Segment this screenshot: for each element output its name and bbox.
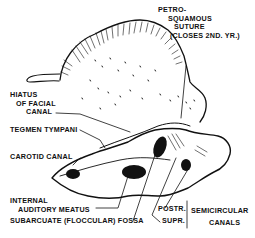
- label-line: CANAL: [10, 108, 56, 117]
- label-tegmen-tympani: TEGMEN TYMPANI: [10, 126, 77, 134]
- label-line: SEMICIRCULAR: [191, 205, 249, 217]
- label-carotid-canal: CAROTID CANAL: [10, 153, 73, 161]
- petrous-shading: [168, 134, 207, 156]
- label-supr: SUPR.: [162, 217, 185, 225]
- label-postr: POSTR.: [158, 205, 186, 213]
- label-line: INTERNAL: [10, 196, 90, 205]
- label-line: CANALS: [191, 217, 249, 229]
- process-outline: [27, 74, 60, 82]
- label-hiatus-facial-canal: HIATUS OF FACIAL CANAL: [10, 91, 56, 117]
- subarcuate-fossa: [151, 135, 170, 160]
- label-internal-auditory-meatus: INTERNAL AUDITORY MEATUS: [10, 196, 90, 214]
- internal-auditory-meatus: [122, 165, 146, 179]
- label-line: AUDITORY MEATUS: [10, 205, 90, 214]
- label-subarcuate-fossa: SUBARCUATE (FLOCCULAR) FOSSA: [10, 217, 144, 225]
- squama-stipple: [82, 58, 195, 109]
- petrous-outline: [52, 129, 230, 199]
- tegmen-edge: [100, 123, 190, 148]
- label-petrosquamous-suture: PETRO- SQUAMOUS SUTURE (CLOSES 2ND. YR.): [158, 6, 240, 40]
- semicircular-depression: [181, 159, 191, 171]
- carotid-canal-opening: [66, 169, 80, 179]
- label-semicircular-canals: SEMICIRCULAR CANALS: [191, 205, 249, 229]
- label-line: (CLOSES 2ND. YR.): [158, 32, 240, 41]
